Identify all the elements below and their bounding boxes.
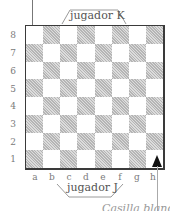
square-e2 — [95, 133, 112, 151]
rank-label: 1 — [9, 154, 17, 164]
square-c5 — [60, 79, 77, 97]
square-e4 — [95, 97, 112, 115]
square-d4 — [77, 97, 94, 115]
chessboard — [25, 25, 165, 170]
square-c1 — [60, 150, 77, 168]
square-c7 — [60, 44, 77, 62]
square-g3 — [129, 115, 146, 133]
square-e1 — [95, 150, 112, 168]
square-g2 — [129, 133, 146, 151]
top-player-label: jugador K — [70, 9, 125, 22]
square-a7 — [26, 44, 43, 62]
square-b1 — [43, 150, 60, 168]
file-label: a — [30, 172, 40, 182]
square-d7 — [77, 44, 94, 62]
square-e7 — [95, 44, 112, 62]
rank-label: 6 — [9, 66, 17, 76]
bottom-caption: Casilla blanca — [102, 202, 170, 211]
rank-label: 2 — [9, 137, 17, 147]
square-d3 — [77, 115, 94, 133]
square-c4 — [60, 97, 77, 115]
square-d2 — [77, 133, 94, 151]
square-c8 — [60, 26, 77, 44]
square-c6 — [60, 62, 77, 80]
square-b8 — [43, 26, 60, 44]
square-h5 — [146, 79, 163, 97]
square-b5 — [43, 79, 60, 97]
square-h6 — [146, 62, 163, 80]
square-e6 — [95, 62, 112, 80]
square-f7 — [112, 44, 129, 62]
square-a1 — [26, 150, 43, 168]
square-f1 — [112, 150, 129, 168]
square-g4 — [129, 97, 146, 115]
square-g8 — [129, 26, 146, 44]
square-a3 — [26, 115, 43, 133]
square-h7 — [146, 44, 163, 62]
square-b6 — [43, 62, 60, 80]
square-d8 — [77, 26, 94, 44]
square-h8 — [146, 26, 163, 44]
square-d1 — [77, 150, 94, 168]
square-a6 — [26, 62, 43, 80]
rank-label: 8 — [9, 30, 17, 40]
bottom-player-label: jugador J — [67, 181, 118, 194]
square-f6 — [112, 62, 129, 80]
square-d5 — [77, 79, 94, 97]
square-g7 — [129, 44, 146, 62]
square-b7 — [43, 44, 60, 62]
square-a8 — [26, 26, 43, 44]
square-e5 — [95, 79, 112, 97]
square-f3 — [112, 115, 129, 133]
square-b3 — [43, 115, 60, 133]
square-e3 — [95, 115, 112, 133]
square-h3 — [146, 115, 163, 133]
square-c3 — [60, 115, 77, 133]
square-a4 — [26, 97, 43, 115]
file-label: g — [132, 172, 142, 182]
rank-label: 4 — [9, 101, 17, 111]
square-g5 — [129, 79, 146, 97]
square-b4 — [43, 97, 60, 115]
square-f5 — [112, 79, 129, 97]
square-d6 — [77, 62, 94, 80]
square-a5 — [26, 79, 43, 97]
square-a2 — [26, 133, 43, 151]
square-g1 — [129, 150, 146, 168]
file-label: b — [47, 172, 57, 182]
square-g6 — [129, 62, 146, 80]
rank-label: 3 — [9, 119, 17, 129]
square-h2 — [146, 133, 163, 151]
square-h4 — [146, 97, 163, 115]
rank-label: 7 — [9, 48, 17, 58]
square-f2 — [112, 133, 129, 151]
square-c2 — [60, 133, 77, 151]
rank-label: 5 — [9, 84, 17, 94]
square-f8 — [112, 26, 129, 44]
square-e8 — [95, 26, 112, 44]
square-f4 — [112, 97, 129, 115]
square-b2 — [43, 133, 60, 151]
